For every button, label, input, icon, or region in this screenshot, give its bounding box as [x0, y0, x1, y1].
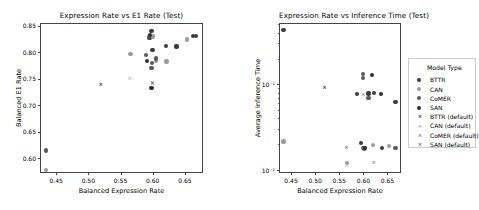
data-point	[372, 91, 376, 95]
legend-item-label: BTTR (default)	[430, 113, 473, 120]
data-point	[128, 52, 132, 56]
y-minor-tick-mark	[278, 103, 279, 104]
data-point	[185, 37, 189, 41]
y-minor-tick-mark	[278, 144, 279, 145]
data-point	[44, 148, 48, 152]
data-point	[387, 144, 391, 148]
legend-marker-circle-icon	[417, 106, 421, 110]
y-minor-tick-mark	[278, 98, 279, 99]
x-tick-label: 0.65	[171, 177, 199, 184]
legend-item-san-default[interactable]: ×SAN (default)	[409, 139, 475, 148]
x-tick-mark	[315, 173, 316, 175]
data-point	[361, 76, 365, 80]
y-tick-label: 0.80	[6, 49, 36, 56]
legend-marker-circle-icon	[417, 96, 421, 100]
y-minor-tick-mark	[278, 93, 279, 94]
y-tick-mark	[38, 52, 40, 53]
y-tick-label: 0.75	[6, 75, 36, 82]
data-point	[380, 146, 384, 150]
x-axis-label-left: Balanced Expression Rate	[40, 187, 203, 195]
x-tick-label: 0.55	[107, 177, 135, 184]
legend-item-label: CoMER	[430, 95, 451, 102]
data-point: ×	[344, 145, 350, 151]
x-tick-mark	[88, 173, 89, 175]
legend-marker-circle-icon	[417, 78, 421, 82]
y-minor-tick-mark	[278, 33, 279, 34]
y-minor-tick-mark	[278, 110, 279, 111]
y-tick-label: 0.65	[6, 128, 36, 135]
data-point	[393, 146, 397, 150]
chart-panel-expression-vs-time: Expression Rate vs Inference Time (Test)…	[238, 0, 478, 210]
x-tick-mark	[121, 173, 122, 175]
legend-item-san[interactable]: SAN	[409, 103, 475, 112]
legend-item-bttr-default[interactable]: ×BTTR (default)	[409, 112, 475, 121]
legend-item-comer[interactable]: CoMER	[409, 93, 475, 102]
plot-area-right	[279, 23, 401, 173]
data-point: ×	[322, 85, 328, 91]
y-minor-tick-mark	[278, 118, 279, 119]
data-point: ×	[98, 82, 104, 88]
data-point	[154, 56, 158, 60]
legend-item-label: BTTR	[430, 76, 446, 83]
x-tick-mark	[56, 173, 57, 175]
legend-marker-circle-icon	[417, 87, 421, 91]
legend-item-label: SAN	[430, 104, 443, 111]
x-tick-mark	[387, 173, 388, 175]
y-minor-tick-mark	[278, 88, 279, 89]
data-point: ×	[344, 163, 350, 169]
data-point: ×	[360, 92, 366, 98]
legend-item-can[interactable]: CAN	[409, 84, 475, 93]
data-point	[281, 28, 285, 32]
data-point: ×	[371, 160, 377, 166]
y-tick-label: 0.85	[6, 22, 36, 29]
y-axis-label-right: Average Inference Time	[254, 59, 262, 137]
legend-item-label: CAN (default)	[430, 122, 470, 129]
data-point	[366, 91, 370, 95]
y-tick-mark	[277, 170, 279, 171]
x-tick-mark	[291, 173, 292, 175]
data-point	[366, 96, 370, 100]
data-point: ×	[127, 76, 133, 82]
y-minor-tick-mark	[278, 59, 279, 60]
data-point	[149, 66, 153, 70]
x-tick-mark	[153, 173, 154, 175]
data-point	[164, 59, 168, 63]
data-point	[150, 48, 154, 52]
data-point	[194, 34, 198, 38]
x-tick-label: 0.45	[42, 177, 70, 184]
y-tick-mark	[38, 132, 40, 133]
legend-item-bttr[interactable]: BTTR	[409, 75, 475, 84]
y-tick-mark	[38, 158, 40, 159]
x-tick-mark	[339, 173, 340, 175]
chart-title-right: Expression Rate vs Inference Time (Test)	[279, 11, 401, 20]
x-tick-label: 0.50	[74, 177, 102, 184]
data-point: ×	[149, 81, 155, 87]
x-axis-label-right: Balanced Expression Rate	[279, 187, 401, 195]
data-point	[148, 33, 152, 37]
data-point	[281, 139, 285, 143]
y-tick-mark	[277, 84, 279, 85]
legend: Model Type BTTRCANCoMERSAN×BTTR (default…	[408, 58, 476, 148]
y-minor-tick-mark	[278, 43, 279, 44]
y-tick-mark	[38, 26, 40, 27]
y-minor-tick-mark	[278, 24, 279, 25]
y-tick-mark	[38, 105, 40, 106]
legend-title: Model Type	[427, 64, 462, 71]
y-minor-tick-mark	[278, 129, 279, 130]
legend-item-label: SAN (default)	[430, 141, 470, 148]
legend-item-label: CoMER (default)	[430, 132, 479, 139]
legend-item-can-default[interactable]: ×CAN (default)	[409, 121, 475, 130]
x-tick-label: 0.60	[139, 177, 167, 184]
data-point	[363, 146, 367, 150]
data-point	[144, 53, 148, 57]
legend-item-label: CAN	[430, 86, 443, 93]
y-tick-label: 0.60	[6, 155, 36, 162]
x-tick-label: 0.65	[373, 177, 401, 184]
legend-item-comer-default[interactable]: ×CoMER (default)	[409, 130, 475, 139]
legend-marker-cross-icon: ×	[417, 140, 423, 149]
y-tick-label: 0.70	[6, 102, 36, 109]
x-tick-mark	[363, 173, 364, 175]
y-tick-label: 10⁻²	[245, 167, 275, 174]
data-point	[174, 44, 178, 48]
